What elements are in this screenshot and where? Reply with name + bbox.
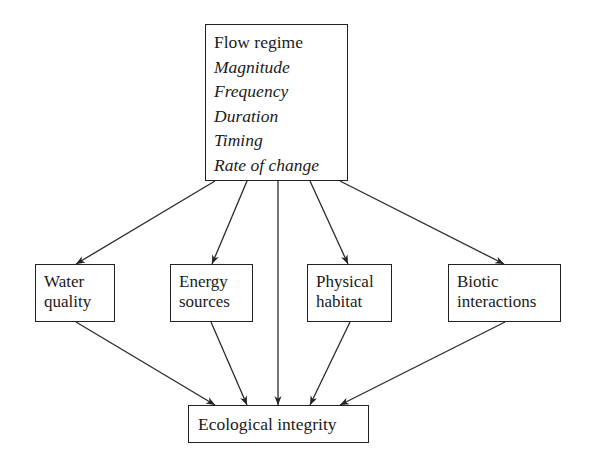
flow-regime-box: Flow regime Magnitude Frequency Duration… (205, 24, 348, 181)
water-quality-line2: quality (44, 292, 114, 312)
biotic-interactions-line1: Biotic (457, 272, 560, 292)
component-frequency: Frequency (214, 79, 347, 104)
physical-habitat-box: Physical habitat (307, 264, 392, 322)
physical-habitat-line1: Physical (316, 272, 391, 292)
biotic-interactions-line2: interactions (457, 292, 560, 312)
ecological-integrity-label: Ecological integrity (198, 414, 368, 434)
energy-sources-line1: Energy (179, 272, 252, 292)
water-quality-box: Water quality (35, 264, 115, 322)
component-duration: Duration (214, 104, 347, 129)
component-rate-of-change: Rate of change (214, 153, 347, 178)
physical-habitat-line2: habitat (316, 292, 391, 312)
component-timing: Timing (214, 128, 347, 153)
arrow-flow-to-physical (310, 181, 348, 264)
component-magnitude: Magnitude (214, 55, 347, 80)
biotic-interactions-box: Biotic interactions (448, 264, 561, 322)
ecological-integrity-box: Ecological integrity (188, 405, 369, 443)
energy-sources-line2: sources (179, 292, 252, 312)
energy-sources-box: Energy sources (170, 264, 253, 322)
arrow-biotic-to-ecological (340, 322, 505, 405)
arrow-flow-to-energy (212, 181, 247, 264)
flow-regime-title: Flow regime (214, 30, 347, 55)
arrow-physical-to-ecological (310, 322, 350, 405)
water-quality-line1: Water (44, 272, 114, 292)
arrow-energy-to-ecological (211, 322, 247, 405)
arrow-flow-to-biotic (340, 181, 504, 264)
arrow-water-to-ecological (76, 322, 215, 405)
arrow-flow-to-water (76, 181, 215, 264)
